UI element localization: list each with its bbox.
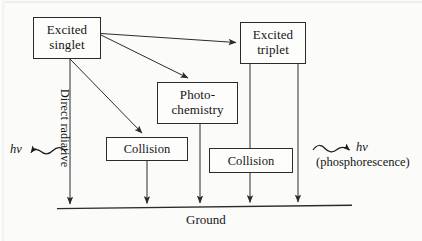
node-collision-left-label: Collision [124,142,171,156]
node-photochemistry[interactable]: Photo- chemistry [157,82,238,124]
phosphorescence-label: (phosphorescence) [316,155,410,170]
node-photochemistry-label: Photo- chemistry [171,88,223,117]
edge-singlet-to-triplet [101,34,236,43]
photon-wave-right-icon [313,145,350,151]
ground-label: Ground [186,212,226,228]
node-excited-singlet-label: Excited singlet [47,23,87,52]
node-collision-right-label: Collision [228,154,275,168]
node-excited-triplet[interactable]: Excited triplet [240,22,306,64]
hv-label-left: hν [10,142,22,157]
photochemistry-diagram: Excited singlet Excited triplet Photo- c… [0,0,422,241]
edge-singlet-to-photochemistry [101,35,188,78]
node-excited-singlet[interactable]: Excited singlet [33,17,101,59]
direct-radiative-label: Direct radiative [57,89,72,167]
ground-line [57,205,352,208]
edge-singlet-to-collision-left [70,59,142,133]
node-excited-triplet-label: Excited triplet [253,28,293,57]
hv-label-right: hν [356,140,368,155]
node-collision-left[interactable]: Collision [106,137,188,161]
node-collision-right[interactable]: Collision [209,148,293,173]
